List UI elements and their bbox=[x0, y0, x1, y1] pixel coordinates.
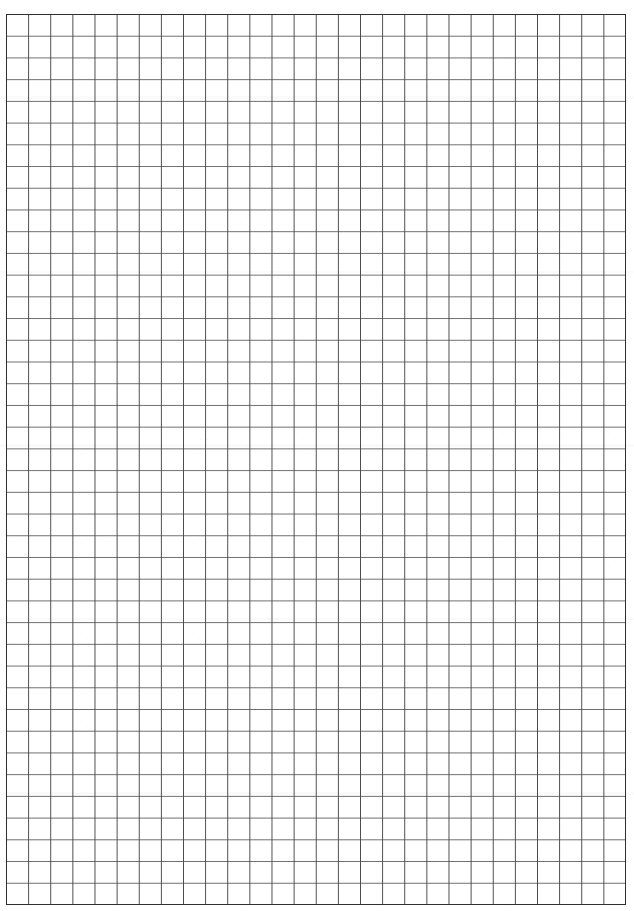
page-canvas bbox=[0, 0, 634, 911]
grid-lines bbox=[6, 14, 626, 905]
grid-paper bbox=[6, 14, 626, 905]
grid-line-bottom bbox=[6, 904, 626, 905]
grid-line-right bbox=[625, 14, 626, 905]
